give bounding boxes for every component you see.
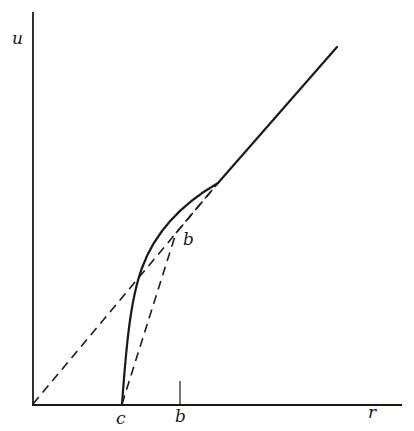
solid-curve (122, 47, 337, 404)
r-axis-label: r (368, 404, 376, 421)
u-axis-label: u (12, 30, 23, 47)
c-tick-label: c (116, 410, 126, 427)
diagram-canvas (0, 0, 414, 431)
b-point-label: b (183, 231, 194, 248)
b-tick-label: b (175, 408, 186, 425)
